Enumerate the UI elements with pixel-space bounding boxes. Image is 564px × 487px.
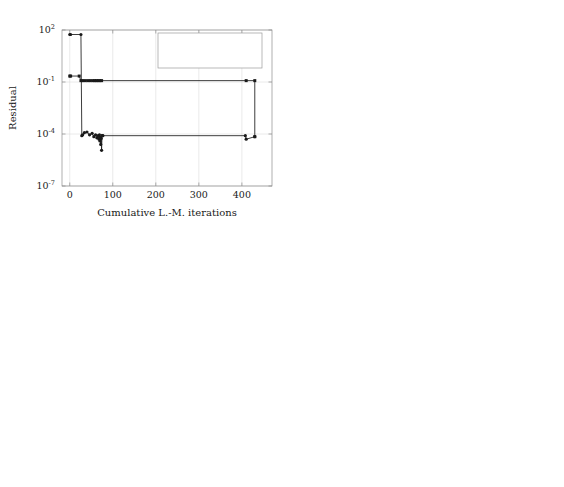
convergence-figure-grid: 010020030040010210-110-410-7Cumulative L… — [0, 0, 564, 487]
svg-text:10-1: 10-1 — [36, 75, 55, 87]
x-axis-title: Cumulative L.-M. iterations — [97, 207, 237, 218]
panel-bottom-right — [282, 244, 564, 487]
svg-text:0: 0 — [67, 189, 73, 200]
panel-bottom-left — [0, 244, 282, 487]
panel-top-left: 010020030040010210-110-410-7Cumulative L… — [0, 0, 282, 244]
plot-top-left: 010020030040010210-110-410-7Cumulative L… — [0, 0, 282, 244]
panel-top-right — [282, 0, 564, 244]
svg-text:10-7: 10-7 — [36, 179, 55, 191]
svg-text:102: 102 — [39, 23, 55, 35]
series-opt-cond — [68, 75, 256, 139]
legend — [158, 33, 262, 68]
x-tick-labels: 0100200300400 — [67, 189, 251, 200]
y-tick-labels: 10210-110-410-7 — [36, 23, 55, 191]
svg-text:100: 100 — [104, 189, 122, 200]
svg-text:200: 200 — [147, 189, 165, 200]
svg-text:10-4: 10-4 — [36, 127, 55, 139]
svg-text:400: 400 — [233, 189, 251, 200]
svg-text:300: 300 — [190, 189, 208, 200]
y-axis-title: Residual — [7, 86, 18, 130]
